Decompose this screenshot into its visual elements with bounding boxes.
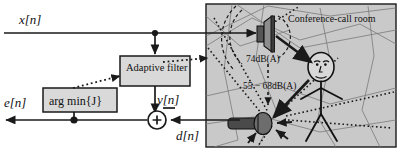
label-signal-e: e[n] <box>4 95 26 111</box>
talker-level-label: 55 − 68dB(A) <box>243 81 296 91</box>
adaptive-filter-label: Adaptive filter <box>126 62 188 73</box>
link-argmin-to-filter <box>73 76 120 88</box>
conference-room-panel <box>206 4 396 147</box>
label-signal-y: y[n] <box>157 92 179 108</box>
label-signal-d: d[n] <box>176 128 199 144</box>
conference-room-label: Conference-call room <box>288 13 375 24</box>
loudspeaker-level-label: 74dB(A) <box>246 54 280 64</box>
figure-acoustic-echo-cancellation: x[n] e[n] y[n] d[n] Adaptive filter arg … <box>0 0 400 151</box>
label-signal-x: x[n] <box>19 12 41 28</box>
arg-min-label: arg min{J} <box>49 94 102 109</box>
summing-junction <box>148 108 175 129</box>
